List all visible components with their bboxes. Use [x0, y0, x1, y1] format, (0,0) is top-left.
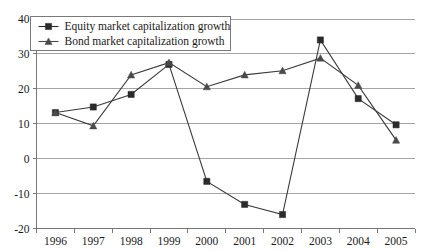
- legend-item-label: Equity market capitalization growth: [65, 20, 231, 33]
- x-tick-label: 1999: [157, 235, 180, 247]
- chart-container: 403020100-10-20 199619971998199920002001…: [0, 0, 424, 251]
- x-tick-label: 2005: [385, 235, 408, 247]
- x-tick-label: 1996: [44, 235, 67, 247]
- y-tick-label: 20: [18, 83, 30, 95]
- square-marker-icon: [45, 23, 51, 29]
- data-point-marker: [393, 122, 399, 128]
- data-point-marker: [392, 137, 399, 144]
- data-point-marker: [355, 82, 362, 89]
- y-tick-label: 30: [18, 48, 30, 60]
- data-point-marker: [242, 201, 248, 207]
- x-tick-label: 2001: [233, 235, 256, 247]
- x-tick-label: 2000: [195, 235, 218, 247]
- y-tick-label: 10: [18, 118, 30, 130]
- data-point-marker: [128, 91, 134, 97]
- data-point-marker: [279, 211, 285, 217]
- data-point-marker: [317, 55, 324, 62]
- line-chart: 403020100-10-20 199619971998199920002001…: [0, 0, 424, 251]
- legend-item-label: Bond market capitalization growth: [65, 35, 225, 48]
- y-tick-label: 0: [24, 153, 30, 165]
- x-tick-label: 2004: [347, 235, 370, 247]
- data-point-marker: [317, 37, 323, 43]
- x-tick-label: 2003: [309, 235, 332, 247]
- x-tick-label: 2002: [271, 235, 294, 247]
- x-axis-ticks: 1996199719981999200020012002200320042005: [37, 229, 416, 247]
- data-point-marker: [204, 178, 210, 184]
- x-tick-label: 1997: [82, 235, 105, 247]
- y-tick-label: -10: [14, 188, 30, 200]
- y-tick-label: -20: [14, 223, 30, 235]
- data-point-marker: [355, 96, 361, 102]
- x-tick-label: 1998: [120, 235, 143, 247]
- data-series-group: [52, 37, 400, 218]
- chart-legend: Equity market capitalization growthBond …: [31, 17, 231, 51]
- data-point-marker: [90, 104, 96, 110]
- y-tick-label: 40: [18, 13, 30, 25]
- series-line-bond: [55, 58, 396, 140]
- series-line-equity: [55, 40, 396, 215]
